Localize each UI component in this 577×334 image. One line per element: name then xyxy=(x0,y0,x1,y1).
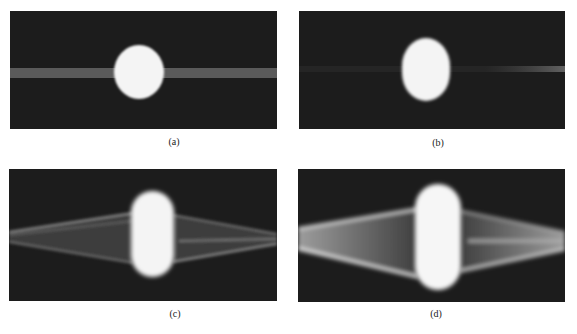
panel-a-graphic xyxy=(10,11,277,129)
caption-a: (a) xyxy=(154,136,194,147)
panel-b-image xyxy=(299,11,565,129)
caption-b: (b) xyxy=(418,137,458,148)
panel-d-graphic xyxy=(298,169,565,302)
panel-c-image xyxy=(9,169,277,301)
panel-c-graphic xyxy=(9,169,277,301)
caption-d: (d) xyxy=(416,308,456,319)
droplet xyxy=(114,45,164,99)
caption-c: (c) xyxy=(155,308,195,319)
droplet xyxy=(402,38,450,101)
panel-b-graphic xyxy=(299,11,565,129)
droplet xyxy=(415,184,461,290)
droplet xyxy=(131,191,174,277)
panel-d-image xyxy=(298,169,565,302)
panel-a-image xyxy=(10,11,277,129)
